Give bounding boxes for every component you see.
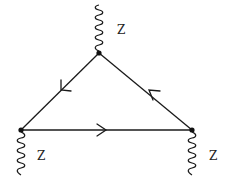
boson-leg-top [95,5,103,51]
label-z-top: Z [117,23,125,37]
vertex-bottom-right [189,127,194,132]
feynman-diagram: Z Z Z [0,0,227,190]
fermion-line-right-to-top [99,53,192,130]
vertex-top [96,50,101,55]
label-z-left: Z [37,149,45,163]
fermion-line-top-to-left [21,53,99,130]
boson-leg-bottom-left [17,132,25,175]
boson-leg-bottom-right [188,132,196,175]
label-z-right: Z [209,149,217,163]
vertex-bottom-left [18,127,23,132]
